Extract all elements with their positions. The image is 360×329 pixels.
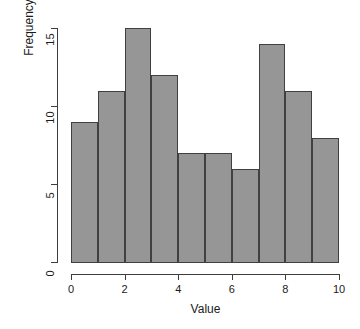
x-axis-title: Value (71, 302, 340, 316)
histogram-bar (125, 28, 152, 263)
histogram-bar (151, 75, 178, 263)
x-axis-tick-label: 0 (56, 283, 86, 296)
y-axis-title: Frequency (22, 0, 36, 145)
x-axis-tick (232, 274, 233, 280)
histogram-figure: 0 5 10 15 0 2 4 6 8 10 Frequency Value (0, 0, 360, 329)
x-axis-tick-label: 2 (110, 283, 140, 296)
y-axis-tick-label: 5 (45, 184, 56, 208)
y-axis-tick-label: 15 (45, 28, 56, 52)
x-axis-tick (71, 274, 72, 280)
x-axis-tick (125, 274, 126, 280)
y-axis-tick-label: 10 (45, 106, 56, 130)
x-axis-tick-label: 8 (270, 283, 300, 296)
histogram-bar (285, 91, 312, 263)
x-axis-tick (178, 274, 179, 280)
histogram-bar (232, 169, 259, 263)
histogram-bar (205, 153, 232, 263)
histogram-bar (178, 153, 205, 263)
x-axis-tick-label: 4 (163, 283, 193, 296)
histogram-bar (312, 138, 339, 263)
histogram-bar (71, 122, 98, 263)
y-axis-line (57, 28, 58, 263)
x-axis-tick-label: 10 (324, 283, 354, 296)
histogram-bar (259, 44, 286, 263)
plot-area: 0 5 10 15 0 2 4 6 8 10 Frequency Value (0, 0, 360, 329)
x-axis-tick (285, 274, 286, 280)
x-axis-line (71, 274, 340, 275)
x-axis-tick (339, 274, 340, 280)
y-axis-tick-label: 0 (45, 262, 56, 286)
histogram-bar (98, 91, 125, 263)
x-axis-tick-label: 6 (217, 283, 247, 296)
